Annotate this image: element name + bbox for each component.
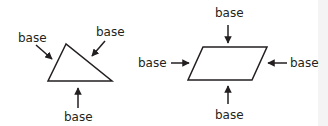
parallelogram-label-right: base: [290, 56, 319, 70]
parallelogram-figure: base base base base: [138, 6, 319, 122]
triangle-label-bottom: base: [64, 110, 93, 124]
triangle-shape: [48, 44, 112, 81]
triangle-figure: base base base: [18, 25, 125, 124]
triangle-label-right: base: [96, 25, 125, 39]
parallelogram-label-top: base: [215, 6, 244, 20]
parallelogram-label-left: base: [138, 56, 167, 70]
parallelogram-shape: [188, 47, 267, 80]
base-diagram: base base base base base base base: [0, 0, 328, 126]
triangle-arrow-left: [36, 45, 52, 59]
parallelogram-label-bottom: base: [215, 108, 244, 122]
triangle-arrow-right: [92, 41, 105, 56]
triangle-label-left: base: [18, 31, 47, 45]
